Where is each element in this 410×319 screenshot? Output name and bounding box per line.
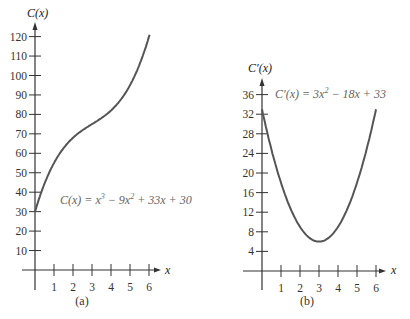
y-tick-label: 90 [16,89,28,101]
panel-caption: (b) [300,294,314,308]
y-tick-label: 12 [243,206,255,218]
equation-label: C(x) = x3 − 9x2 + 33x + 30 [60,192,192,207]
x-tick-label: 4 [108,281,114,293]
function-curve [262,109,376,241]
x-tick-label: 2 [70,281,76,293]
x-axis-label: x [390,263,397,277]
y-tick-label: 32 [243,108,255,120]
y-tick-label: 70 [16,128,28,140]
x-tick-label: 5 [127,281,133,293]
x-tick-label: 2 [297,282,303,294]
y-tick-label: 20 [16,225,28,237]
x-tick-label: 1 [51,281,57,293]
y-tick-label: 16 [243,187,255,199]
y-tick-label: 10 [16,245,28,257]
x-tick-label: 5 [354,282,360,294]
y-tick-label: 36 [243,89,255,101]
chart-panel-b: 1234564812162024283236C′(x)x(b)C′(x) = 3… [243,61,398,308]
y-tick-label: 80 [16,108,28,120]
y-tick-label: 50 [16,167,28,179]
y-tick-label: 30 [16,206,28,218]
x-axis-label: x [164,263,171,277]
y-tick-label: 110 [10,50,27,62]
y-tick-label: 8 [248,226,254,238]
x-tick-label: 1 [278,282,284,294]
y-tick-label: 120 [10,31,28,43]
equation-label: C′(x) = 3x2 − 18x + 33 [275,86,386,101]
y-tick-label: 28 [243,128,255,140]
y-tick-label: 100 [10,70,28,82]
y-tick-label: 60 [16,147,28,159]
x-axis-arrow-icon [154,268,161,273]
x-tick-label: 6 [373,282,379,294]
chart-panel-a: 123456102030405060708090100110120C(x)x(a… [10,6,192,308]
y-axis-arrow-icon [33,22,38,30]
x-axis-arrow-icon [379,269,386,274]
y-tick-label: 24 [243,147,255,159]
y-axis-arrow-icon [260,78,265,86]
y-tick-label: 4 [248,245,254,257]
y-tick-label: 20 [243,167,255,179]
x-tick-label: 6 [146,281,152,293]
y-axis-label: C(x) [27,6,48,20]
x-tick-label: 3 [89,281,95,293]
y-tick-label: 40 [16,186,28,198]
y-axis-label: C′(x) [248,61,272,75]
function-curve [35,35,150,212]
figure: 123456102030405060708090100110120C(x)x(a… [0,0,410,319]
x-tick-label: 3 [316,282,322,294]
panel-caption: (a) [75,294,88,308]
x-tick-label: 4 [335,282,341,294]
